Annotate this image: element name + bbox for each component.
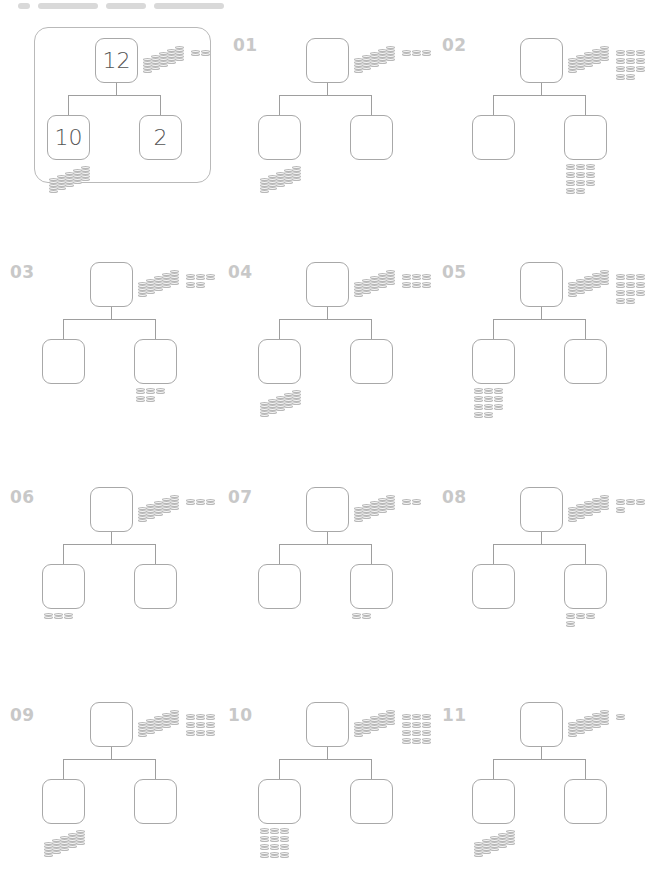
part-box-left[interactable]: 10 (47, 115, 90, 160)
part-box-left[interactable] (472, 564, 515, 609)
part-box-left[interactable] (472, 115, 515, 160)
problem-number: 01 (233, 35, 258, 55)
problem-number: 03 (10, 262, 35, 282)
whole-box[interactable] (520, 38, 563, 83)
connector-line (541, 83, 542, 95)
problem-number: 07 (228, 487, 253, 507)
part-box-left[interactable] (42, 339, 85, 384)
connector-line (279, 95, 372, 96)
part-box-right[interactable] (350, 779, 393, 824)
connector-line (327, 307, 328, 319)
part-box-right[interactable] (134, 779, 177, 824)
connector-line (155, 319, 156, 339)
whole-box[interactable] (306, 262, 349, 307)
connector-line (63, 319, 64, 339)
part-box-right[interactable]: 2 (139, 115, 182, 160)
whole-box[interactable]: 12 (95, 38, 138, 83)
problem-number: 08 (442, 487, 467, 507)
connector-line (160, 95, 161, 115)
problem-number: 02 (442, 35, 467, 55)
part-box-left[interactable] (258, 115, 301, 160)
connector-line (279, 95, 280, 115)
part-box-right[interactable] (134, 564, 177, 609)
connector-line (493, 95, 586, 96)
connector-line (493, 759, 586, 760)
problem-number: 10 (228, 705, 253, 725)
whole-box[interactable] (520, 702, 563, 747)
part-box-right[interactable] (350, 115, 393, 160)
problem-number: 04 (228, 262, 253, 282)
whole-box[interactable] (90, 487, 133, 532)
connector-line (371, 319, 372, 339)
whole-box[interactable] (520, 487, 563, 532)
connector-line (585, 759, 586, 779)
part-box-right[interactable] (564, 115, 607, 160)
part-box-left[interactable] (472, 779, 515, 824)
part-box-left[interactable] (258, 339, 301, 384)
whole-box[interactable] (90, 702, 133, 747)
connector-line (327, 747, 328, 759)
whole-box[interactable] (90, 262, 133, 307)
part-box-right[interactable] (134, 339, 177, 384)
connector-line (279, 544, 372, 545)
connector-line (63, 759, 156, 760)
ten-coin-pile (354, 493, 398, 525)
ten-coin-pile (138, 493, 182, 525)
problem-number: 11 (442, 705, 467, 725)
ten-coin-pile (260, 388, 304, 420)
connector-line (116, 83, 117, 95)
ten-coin-pile (138, 708, 182, 740)
ten-coin-pile (354, 268, 398, 300)
connector-line (279, 759, 372, 760)
connector-line (493, 544, 586, 545)
connector-line (279, 319, 372, 320)
problem-number: 05 (442, 262, 467, 282)
connector-line (493, 95, 494, 115)
part-box-left[interactable] (42, 564, 85, 609)
connector-line (111, 747, 112, 759)
connector-line (493, 544, 494, 564)
problem-number: 09 (10, 705, 35, 725)
connector-line (371, 544, 372, 564)
connector-line (371, 95, 372, 115)
part-box-right[interactable] (564, 339, 607, 384)
part-box-left[interactable] (42, 779, 85, 824)
connector-line (541, 307, 542, 319)
ten-coin-pile (354, 708, 398, 740)
whole-box[interactable] (306, 487, 349, 532)
ten-coin-pile (354, 44, 398, 76)
part-box-left[interactable] (258, 779, 301, 824)
part-box-left[interactable] (472, 339, 515, 384)
whole-box[interactable] (520, 262, 563, 307)
ten-coin-pile (568, 708, 612, 740)
part-box-right[interactable] (564, 779, 607, 824)
ten-coin-pile (568, 493, 612, 525)
part-box-left[interactable] (258, 564, 301, 609)
part-box-right[interactable] (350, 339, 393, 384)
connector-line (493, 319, 586, 320)
connector-line (327, 83, 328, 95)
part-box-right[interactable] (564, 564, 607, 609)
connector-line (541, 532, 542, 544)
connector-line (371, 759, 372, 779)
connector-line (68, 95, 69, 115)
ten-coin-pile (44, 828, 88, 860)
whole-box[interactable] (306, 38, 349, 83)
connector-line (111, 307, 112, 319)
connector-line (63, 759, 64, 779)
connector-line (585, 544, 586, 564)
ten-coin-pile (568, 44, 612, 76)
part-box-right[interactable] (350, 564, 393, 609)
connector-line (493, 759, 494, 779)
connector-line (327, 532, 328, 544)
ten-coin-pile (568, 268, 612, 300)
ten-coin-pile (474, 828, 518, 860)
whole-box[interactable] (306, 702, 349, 747)
ten-coin-pile (138, 268, 182, 300)
connector-line (279, 544, 280, 564)
connector-line (541, 747, 542, 759)
connector-line (63, 319, 156, 320)
connector-line (68, 95, 161, 96)
header-strip-cut-off (18, 0, 318, 4)
connector-line (585, 319, 586, 339)
